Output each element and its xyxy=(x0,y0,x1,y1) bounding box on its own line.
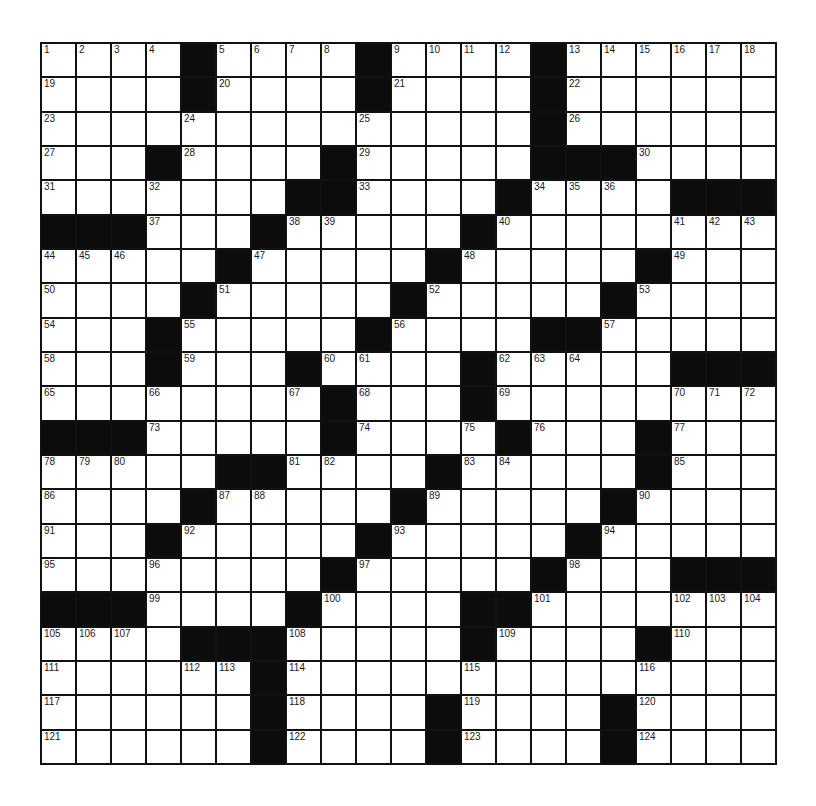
answer-cell[interactable] xyxy=(567,387,600,419)
answer-cell[interactable] xyxy=(287,113,320,145)
answer-cell[interactable] xyxy=(252,319,285,351)
answer-cell[interactable] xyxy=(392,353,425,385)
answer-cell[interactable]: 74 xyxy=(357,422,390,454)
answer-cell[interactable] xyxy=(742,147,775,179)
answer-cell[interactable] xyxy=(357,628,390,660)
answer-cell[interactable] xyxy=(112,662,145,694)
answer-cell[interactable] xyxy=(532,250,565,282)
answer-cell[interactable] xyxy=(532,387,565,419)
answer-cell[interactable] xyxy=(147,696,180,728)
answer-cell[interactable]: 89 xyxy=(427,490,460,522)
answer-cell[interactable] xyxy=(602,250,635,282)
answer-cell[interactable] xyxy=(217,387,250,419)
answer-cell[interactable] xyxy=(742,696,775,728)
answer-cell[interactable]: 88 xyxy=(252,490,285,522)
answer-cell[interactable] xyxy=(497,731,530,763)
answer-cell[interactable]: 14 xyxy=(602,44,635,76)
answer-cell[interactable] xyxy=(497,78,530,110)
answer-cell[interactable] xyxy=(287,559,320,591)
answer-cell[interactable]: 108 xyxy=(287,628,320,660)
answer-cell[interactable]: 111 xyxy=(42,662,75,694)
answer-cell[interactable] xyxy=(252,422,285,454)
answer-cell[interactable]: 66 xyxy=(147,387,180,419)
answer-cell[interactable]: 15 xyxy=(637,44,670,76)
answer-cell[interactable]: 38 xyxy=(287,216,320,248)
answer-cell[interactable] xyxy=(497,490,530,522)
answer-cell[interactable]: 35 xyxy=(567,181,600,213)
answer-cell[interactable] xyxy=(462,559,495,591)
answer-cell[interactable] xyxy=(217,319,250,351)
answer-cell[interactable] xyxy=(462,490,495,522)
answer-cell[interactable] xyxy=(392,696,425,728)
answer-cell[interactable] xyxy=(602,78,635,110)
answer-cell[interactable]: 94 xyxy=(602,525,635,557)
answer-cell[interactable]: 48 xyxy=(462,250,495,282)
answer-cell[interactable] xyxy=(672,696,705,728)
answer-cell[interactable] xyxy=(532,490,565,522)
answer-cell[interactable] xyxy=(637,78,670,110)
answer-cell[interactable] xyxy=(252,284,285,316)
answer-cell[interactable] xyxy=(497,284,530,316)
answer-cell[interactable]: 70 xyxy=(672,387,705,419)
answer-cell[interactable] xyxy=(672,662,705,694)
answer-cell[interactable]: 123 xyxy=(462,731,495,763)
answer-cell[interactable]: 100 xyxy=(322,593,355,625)
answer-cell[interactable]: 7 xyxy=(287,44,320,76)
answer-cell[interactable] xyxy=(462,319,495,351)
answer-cell[interactable]: 52 xyxy=(427,284,460,316)
answer-cell[interactable]: 124 xyxy=(637,731,670,763)
answer-cell[interactable] xyxy=(147,731,180,763)
answer-cell[interactable]: 122 xyxy=(287,731,320,763)
answer-cell[interactable]: 47 xyxy=(252,250,285,282)
answer-cell[interactable]: 19 xyxy=(42,78,75,110)
answer-cell[interactable] xyxy=(217,422,250,454)
answer-cell[interactable] xyxy=(392,387,425,419)
answer-cell[interactable] xyxy=(532,662,565,694)
answer-cell[interactable] xyxy=(322,696,355,728)
answer-cell[interactable] xyxy=(742,284,775,316)
answer-cell[interactable] xyxy=(427,628,460,660)
answer-cell[interactable] xyxy=(322,284,355,316)
answer-cell[interactable]: 67 xyxy=(287,387,320,419)
answer-cell[interactable]: 44 xyxy=(42,250,75,282)
answer-cell[interactable]: 71 xyxy=(707,387,740,419)
answer-cell[interactable] xyxy=(427,147,460,179)
answer-cell[interactable] xyxy=(602,216,635,248)
answer-cell[interactable] xyxy=(497,662,530,694)
answer-cell[interactable] xyxy=(742,490,775,522)
answer-cell[interactable] xyxy=(252,147,285,179)
answer-cell[interactable] xyxy=(602,559,635,591)
answer-cell[interactable]: 46 xyxy=(112,250,145,282)
answer-cell[interactable]: 10 xyxy=(427,44,460,76)
answer-cell[interactable] xyxy=(147,113,180,145)
answer-cell[interactable] xyxy=(497,250,530,282)
answer-cell[interactable] xyxy=(252,353,285,385)
answer-cell[interactable] xyxy=(392,456,425,488)
answer-cell[interactable] xyxy=(567,731,600,763)
answer-cell[interactable] xyxy=(637,216,670,248)
answer-cell[interactable]: 121 xyxy=(42,731,75,763)
answer-cell[interactable] xyxy=(182,181,215,213)
answer-cell[interactable]: 65 xyxy=(42,387,75,419)
answer-cell[interactable] xyxy=(462,525,495,557)
answer-cell[interactable]: 87 xyxy=(217,490,250,522)
answer-cell[interactable]: 64 xyxy=(567,353,600,385)
answer-cell[interactable]: 86 xyxy=(42,490,75,522)
answer-cell[interactable] xyxy=(112,525,145,557)
answer-cell[interactable] xyxy=(707,456,740,488)
answer-cell[interactable] xyxy=(672,113,705,145)
answer-cell[interactable]: 115 xyxy=(462,662,495,694)
answer-cell[interactable] xyxy=(567,422,600,454)
answer-cell[interactable]: 116 xyxy=(637,662,670,694)
answer-cell[interactable]: 79 xyxy=(77,456,110,488)
answer-cell[interactable] xyxy=(112,147,145,179)
answer-cell[interactable] xyxy=(392,628,425,660)
answer-cell[interactable]: 96 xyxy=(147,559,180,591)
answer-cell[interactable]: 97 xyxy=(357,559,390,591)
answer-cell[interactable] xyxy=(742,250,775,282)
answer-cell[interactable] xyxy=(112,78,145,110)
answer-cell[interactable] xyxy=(287,422,320,454)
answer-cell[interactable]: 106 xyxy=(77,628,110,660)
answer-cell[interactable] xyxy=(182,731,215,763)
answer-cell[interactable] xyxy=(217,525,250,557)
